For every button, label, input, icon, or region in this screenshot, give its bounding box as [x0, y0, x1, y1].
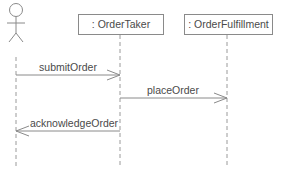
object-order-taker: : OrderTaker	[79, 15, 164, 35]
message-submit-order-label: submitOrder	[39, 61, 97, 73]
message-place-order-label: placeOrder	[147, 84, 199, 96]
object-order-fulfillment-label: : OrderFulfillment	[188, 18, 269, 30]
message-acknowledge-order-label: acknowledgeOrder	[30, 117, 119, 129]
sequence-diagram: : OrderTaker : OrderFulfillment submitOr…	[0, 0, 282, 179]
object-order-taker-label: : OrderTaker	[92, 18, 151, 30]
message-place-order: placeOrder	[120, 84, 227, 103]
object-order-fulfillment: : OrderFulfillment	[185, 15, 273, 35]
message-acknowledge-order: acknowledgeOrder	[16, 117, 120, 136]
message-submit-order: submitOrder	[16, 61, 120, 80]
actor-stick-figure-icon	[7, 4, 25, 43]
